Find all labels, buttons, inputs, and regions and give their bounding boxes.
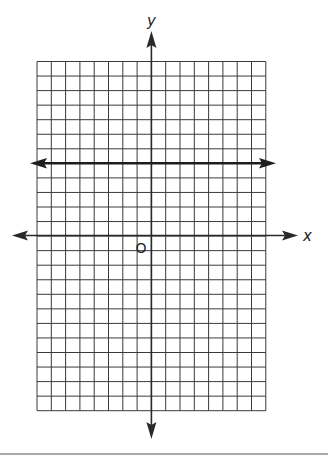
origin-label: O [136,240,147,256]
horizontal-line [30,158,276,169]
coordinate-plane: x y O [0,0,328,460]
x-axis-label: x [302,227,312,245]
y-axis-label: y [146,12,157,30]
